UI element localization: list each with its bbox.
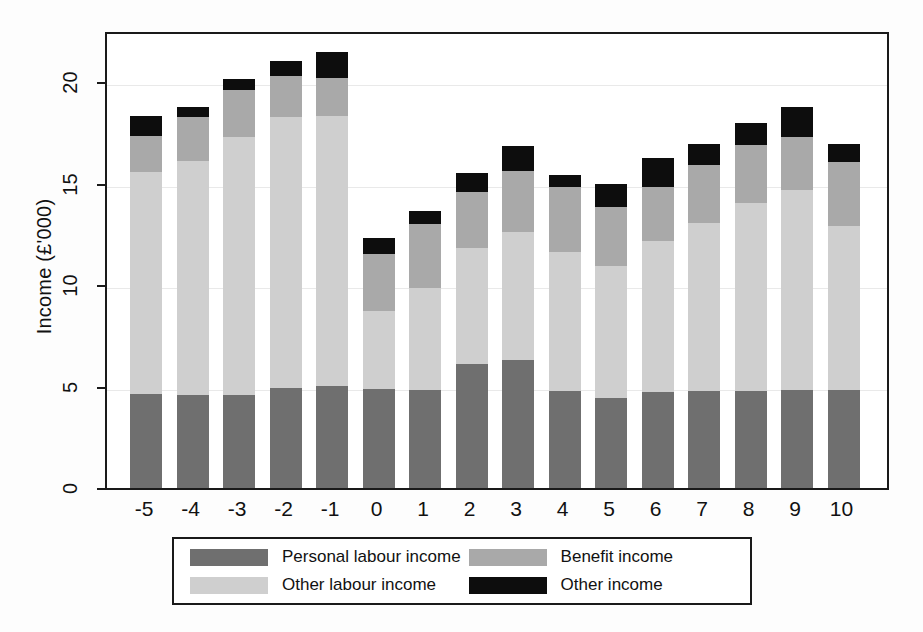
x-axis-tick-label: 10 — [819, 497, 865, 521]
bar-segment — [549, 187, 581, 252]
bar-segment — [316, 116, 348, 386]
bar-segment — [735, 203, 767, 391]
bar-segment — [409, 390, 441, 488]
bar--4 — [177, 107, 209, 488]
bar-2 — [456, 173, 488, 488]
legend-swatch — [190, 549, 268, 566]
bar-segment — [688, 391, 720, 488]
bar-segment — [642, 158, 674, 186]
bar-segment — [363, 389, 395, 488]
bar-group — [107, 34, 887, 488]
bar-segment — [130, 116, 162, 136]
bar-segment — [316, 78, 348, 116]
bar-segment — [828, 390, 860, 488]
bar-9 — [781, 107, 813, 488]
bar-segment — [363, 254, 395, 312]
bar-segment — [642, 187, 674, 242]
bar-segment — [409, 224, 441, 288]
legend-swatch — [469, 549, 547, 566]
bar-segment — [595, 207, 627, 266]
bar-10 — [828, 144, 860, 488]
legend-label: Other labour income — [282, 575, 436, 595]
x-axis-tick-label: 0 — [354, 497, 400, 521]
y-axis-tick-label: 20 — [59, 59, 82, 107]
x-axis-tick-label: 6 — [633, 497, 679, 521]
bar-segment — [688, 165, 720, 223]
bar-segment — [270, 117, 302, 388]
bar-segment — [130, 172, 162, 393]
bar-segment — [502, 146, 534, 171]
x-axis-tick-label: 1 — [400, 497, 446, 521]
bar-segment — [456, 192, 488, 249]
bar-segment — [735, 123, 767, 145]
bar-segment — [223, 137, 255, 395]
bar-segment — [177, 161, 209, 394]
bar-segment — [177, 117, 209, 162]
bar-segment — [502, 232, 534, 360]
x-axis-tick-label: -1 — [307, 497, 353, 521]
bar-segment — [409, 211, 441, 224]
y-axis-tick-label: 5 — [59, 363, 82, 411]
x-axis-tick-label: 9 — [772, 497, 818, 521]
legend-item: Other income — [469, 575, 734, 595]
bar-segment — [595, 184, 627, 207]
chart-root: Income (£'000) 05101520 -5-4-3-2-1012345… — [0, 0, 923, 632]
bar-segment — [549, 391, 581, 488]
bar-segment — [828, 226, 860, 389]
bar-segment — [781, 190, 813, 390]
bar-segment — [735, 391, 767, 488]
legend-item: Other labour income — [190, 575, 461, 595]
bar-segment — [456, 173, 488, 191]
bar-segment — [223, 79, 255, 90]
x-axis-tick-label: 8 — [726, 497, 772, 521]
bar-segment — [781, 137, 813, 190]
bar-segment — [363, 238, 395, 253]
bar-3 — [502, 146, 534, 488]
bar-segment — [409, 288, 441, 390]
x-axis-tick-label: 3 — [493, 497, 539, 521]
y-axis-tick-label: 15 — [59, 160, 82, 208]
legend: Personal labour incomeBenefit incomeOthe… — [172, 537, 752, 605]
x-axis-tick-label: -2 — [261, 497, 307, 521]
x-axis-tick-label: -4 — [168, 497, 214, 521]
bar-7 — [688, 144, 720, 488]
x-axis-tick-label: 5 — [586, 497, 632, 521]
bar-4 — [549, 175, 581, 488]
bar-segment — [502, 171, 534, 232]
bar-1 — [409, 211, 441, 488]
bar-segment — [270, 76, 302, 117]
bar--5 — [130, 116, 162, 489]
bar-segment — [456, 248, 488, 364]
bar-segment — [177, 395, 209, 488]
bar-segment — [828, 162, 860, 226]
bar-segment — [130, 136, 162, 173]
bar-segment — [177, 107, 209, 116]
bar-6 — [642, 158, 674, 488]
bar-segment — [549, 175, 581, 186]
y-axis-title: Income (£'000) — [33, 137, 56, 397]
legend-item: Benefit income — [469, 547, 734, 567]
bar-segment — [688, 144, 720, 165]
x-axis-tick-label: 7 — [679, 497, 725, 521]
legend-swatch — [190, 577, 268, 594]
legend-label: Personal labour income — [282, 547, 461, 567]
bar-0 — [363, 238, 395, 488]
bar-segment — [781, 390, 813, 488]
bar-segment — [130, 394, 162, 488]
bar-segment — [735, 145, 767, 203]
bar-segment — [781, 107, 813, 136]
bar-segment — [456, 364, 488, 488]
bar--3 — [223, 79, 255, 488]
bar-segment — [828, 144, 860, 162]
x-axis-tick-label: 4 — [540, 497, 586, 521]
bar-8 — [735, 123, 767, 488]
bar-segment — [688, 223, 720, 390]
plot-area — [105, 32, 889, 490]
bar-segment — [642, 392, 674, 488]
y-axis-tick-label: 0 — [59, 465, 82, 513]
bar-segment — [223, 90, 255, 137]
bar-5 — [595, 184, 627, 489]
x-axis-tick-label: -3 — [214, 497, 260, 521]
bar--1 — [316, 52, 348, 488]
legend-swatch — [469, 577, 547, 594]
